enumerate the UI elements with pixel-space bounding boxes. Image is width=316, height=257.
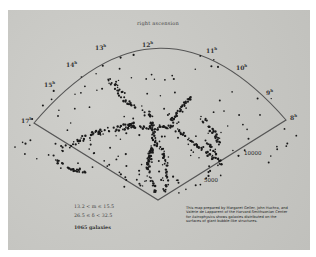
magnitude-range: 13.2 < m ≤ 15.5 bbox=[74, 204, 114, 209]
wedge-outline bbox=[34, 48, 286, 200]
ra-label-9h: 9h bbox=[266, 88, 273, 96]
ra-label-15h: 15h bbox=[44, 80, 55, 88]
ra-label-10h: 10h bbox=[236, 63, 247, 71]
distance-label-5000: 5000 bbox=[204, 177, 218, 183]
galaxy-count: 1065 galaxies bbox=[74, 224, 111, 230]
ra-label-11h: 11h bbox=[206, 46, 217, 54]
ra-label-14h: 14h bbox=[66, 60, 77, 68]
distance-label-10000: 10000 bbox=[244, 150, 262, 156]
declination-range: 26.5 ≤ δ < 32.5 bbox=[74, 213, 112, 218]
ra-label-13h: 13h bbox=[95, 43, 106, 51]
axis-title-right-ascension: right ascension bbox=[0, 20, 316, 26]
ra-label-8h: 8h bbox=[290, 113, 297, 121]
ra-label-12h: 12h bbox=[142, 40, 153, 48]
map-caption: This map prepared by Margaret Geller, Jo… bbox=[186, 206, 292, 224]
ra-label-17h: 17h bbox=[21, 116, 32, 124]
